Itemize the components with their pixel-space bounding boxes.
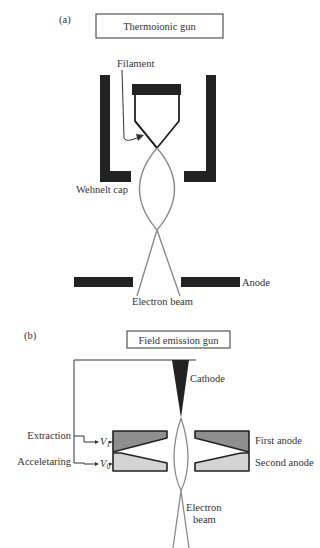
first-anode-left (113, 431, 167, 452)
v1-terminal-dot (109, 441, 112, 444)
extraction-label: Extraction (27, 430, 71, 441)
wehnelt-cap-label: Wehnelt cap (76, 184, 128, 195)
accelerating-label: Acceletaring (17, 456, 71, 467)
electron-beam-label-a: Electron beam (132, 296, 193, 307)
second-anode-left (113, 453, 167, 471)
beam-diverging-b (173, 491, 189, 548)
filament-arrowhead-icon (136, 134, 144, 141)
panel-b-label: (b) (24, 330, 37, 342)
anode-left (74, 277, 133, 287)
electron-gun-diagram: (a) Thermoionic gun Filament Wehnelt cap… (0, 0, 320, 548)
v0-terminal-dot (109, 463, 112, 466)
electron-beam-label-b-line2: beam (193, 514, 216, 525)
cathode-label: Cathode (190, 373, 225, 384)
beam-crossover-lens (140, 148, 175, 230)
second-anode-right (195, 453, 249, 471)
filament-holder (132, 84, 181, 95)
beam-lens-b (174, 418, 188, 491)
v1-symbol: V1 (100, 436, 110, 449)
beam-diverging (137, 230, 180, 296)
filament-pointer-line (122, 70, 140, 140)
panel-b-title: Field emission gun (139, 335, 220, 346)
cathode-tip (172, 360, 189, 418)
filament-wire (135, 95, 179, 148)
panel-a-label: (a) (59, 14, 71, 26)
wehnelt-cap-right (184, 75, 216, 182)
panel-b: (b) Field emission gun Cathode Extractio… (17, 330, 314, 548)
panel-a-title: Thermoionic gun (123, 21, 196, 32)
filament-label: Filament (117, 58, 154, 69)
anode-label: Anode (242, 277, 270, 288)
accelerating-arrow-icon (95, 462, 99, 466)
anode-right (181, 277, 240, 287)
electron-beam-label-b-line1: Electron (186, 502, 222, 513)
first-anode-right (195, 431, 249, 452)
wehnelt-cap-left (100, 75, 131, 182)
extraction-arrow-icon (95, 440, 99, 444)
panel-a: (a) Thermoionic gun Filament Wehnelt cap… (59, 14, 270, 307)
extraction-wire (74, 436, 95, 442)
first-anode-label: First anode (255, 435, 302, 446)
accelerating-wire (74, 463, 95, 464)
second-anode-label: Second anode (255, 457, 314, 468)
